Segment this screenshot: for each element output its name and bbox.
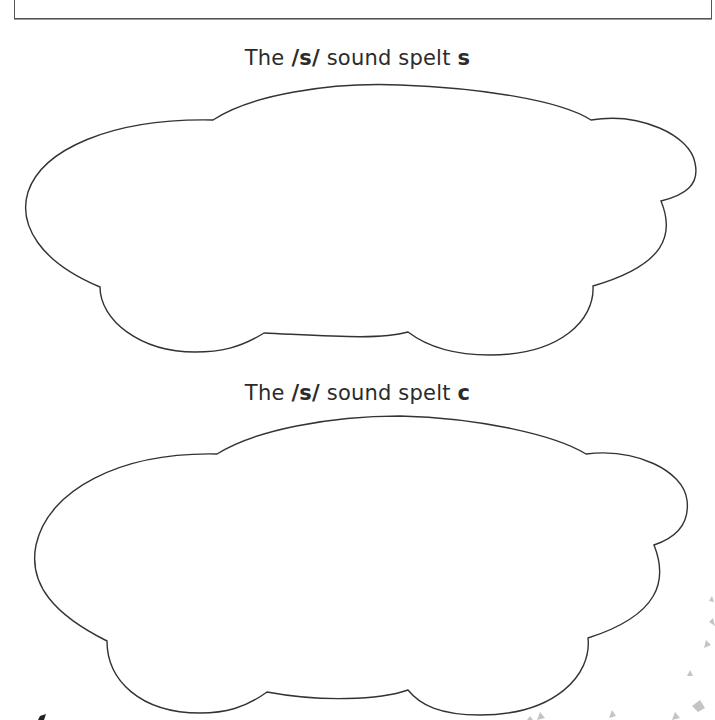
star-icon [527, 596, 715, 720]
decorative-mark-icon [38, 714, 46, 720]
decorative-stars [0, 0, 715, 720]
